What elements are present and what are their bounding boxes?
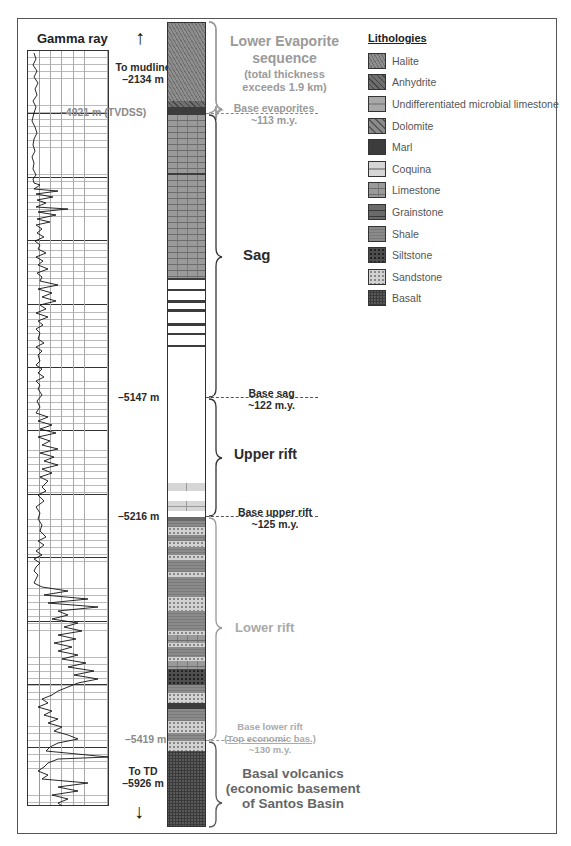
legend-label: Grainstone [392, 206, 443, 218]
gamma-ray-curve [28, 51, 110, 807]
layer-sandstone [168, 721, 205, 733]
sag-label: Sag [243, 246, 271, 263]
layer-shale [168, 709, 205, 721]
layer-shale [168, 577, 205, 597]
layer-sandstone [168, 741, 205, 751]
layer-limestone [168, 635, 205, 643]
legend-label: Sandstone [392, 271, 442, 283]
microbial-swatch-icon [368, 96, 386, 112]
legend-item-coquina: Coquina [368, 158, 559, 180]
legend-label: Undifferentiated microbial limestone [392, 98, 559, 110]
layer-limestone [168, 115, 205, 278]
legend-label: Marl [392, 141, 412, 153]
layer-shale [168, 547, 205, 555]
arrow-up-icon: ↑ [135, 26, 145, 49]
lower-rift-label: Lower rift [235, 620, 294, 635]
grainstone-swatch-icon [368, 204, 386, 220]
interval-braces [206, 20, 226, 830]
layer-shale [168, 560, 205, 572]
layer-sandstone [168, 693, 205, 703]
layer-marl [168, 300, 205, 303]
upper-rift-label: Upper rift [234, 446, 297, 462]
legend-item-marl: Marl [368, 136, 559, 158]
depth-marker-4921: –4921 m (TVDSS) [60, 106, 146, 118]
lithology-legend: Lithologies HaliteAnhydriteUndifferentia… [368, 32, 559, 309]
halite-swatch-icon [368, 53, 386, 69]
depth-marker-5419: –5419 m [125, 733, 166, 745]
base-lower-rift-label: Base lower rift (Top economic bas.) ~130… [216, 721, 324, 756]
legend-label: Coquina [392, 163, 431, 175]
layer-siltstone [168, 669, 205, 685]
limestone-swatch-icon [368, 182, 386, 198]
legend-item-grainstone: Grainstone [368, 201, 559, 223]
shale-swatch-icon [368, 226, 386, 242]
layer-marl [168, 345, 205, 347]
gamma-ray-track [27, 50, 109, 806]
layer-marl [168, 278, 205, 280]
legend-item-halite: Halite [368, 50, 559, 72]
layer-shale [168, 611, 205, 631]
legend-label: Anhydrite [392, 76, 436, 88]
layer-limestone [168, 661, 205, 669]
legend-item-sandstone: Sandstone [368, 266, 559, 288]
layer-sandstone [168, 597, 205, 611]
arrow-down-icon: ↓ [134, 800, 144, 823]
base-sag-label: Base sag ~122 m.y. [224, 387, 319, 411]
depth-marker-5216: –5216 m [118, 510, 159, 522]
legend-label: Halite [392, 55, 419, 67]
marl-swatch-icon [368, 139, 386, 155]
base-evaporites-label: Base evaporites ~113 m.y. [224, 102, 324, 126]
layer-shale [168, 685, 205, 693]
layer-marl [168, 333, 205, 335]
layer-marl [168, 173, 205, 175]
legend-item-basalt: Basalt [368, 288, 559, 310]
layer-sandstone [168, 527, 205, 535]
layer-coquina [168, 483, 205, 491]
legend-label: Dolomite [392, 120, 433, 132]
legend-label: Basalt [392, 292, 421, 304]
lithology-column [167, 22, 206, 827]
sandstone-swatch-icon [368, 269, 386, 285]
siltstone-swatch-icon [368, 247, 386, 263]
legend-label: Siltstone [392, 249, 432, 261]
layer-marl [168, 107, 205, 115]
layer-basalt [168, 751, 205, 827]
legend-title: Lithologies [368, 32, 559, 44]
gamma-ray-title: Gamma ray [37, 31, 108, 46]
dolomite-swatch-icon [368, 118, 386, 134]
legend-item-limestone: Limestone [368, 180, 559, 202]
layer-marl [168, 309, 205, 312]
legend-label: Limestone [392, 184, 440, 196]
base-upper-rift-label: Base upper rift ~125 m.y. [220, 506, 330, 530]
legend-item-dolomite: Dolomite [368, 115, 559, 137]
legend-item-siltstone: Siltstone [368, 244, 559, 266]
basalt-swatch-icon [368, 290, 386, 306]
layer-shale [168, 647, 205, 657]
layer-marl [168, 289, 205, 291]
legend-label: Shale [392, 228, 419, 240]
legend-item-microbial: Undifferentiated microbial limestone [368, 93, 559, 115]
depth-marker-5147: –5147 m [118, 391, 159, 403]
anhydrite-swatch-icon [368, 74, 386, 90]
legend-item-shale: Shale [368, 223, 559, 245]
layer-shale [168, 733, 205, 741]
legend-item-anhydrite: Anhydrite [368, 72, 559, 94]
basal-volcanics-label: Basal volcanics (economic basement of Sa… [218, 766, 368, 811]
layer-halite [168, 23, 205, 101]
lower-evaporite-label: Lower Evaporite sequence [222, 33, 347, 67]
layer-coquina [168, 501, 205, 511]
layer-marl [168, 323, 205, 326]
coquina-swatch-icon [368, 161, 386, 177]
lower-evaporite-note: (total thickness exceeds 1.9 km) [222, 68, 347, 94]
